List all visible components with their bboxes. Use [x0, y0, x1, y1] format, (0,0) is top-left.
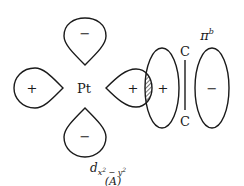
orbital-overlap-diagram: − + Pt + − + C C − πb dx2 − y2 (A) [0, 0, 244, 186]
d-orbital-bottom-lobe: − [64, 108, 106, 157]
sign-minus-top: − [80, 26, 91, 41]
sign-minus-bottom: − [80, 129, 91, 144]
sign-minus-pi: − [207, 81, 218, 96]
sign-plus-right: + [128, 81, 139, 96]
d-orbital-top-lobe: − [64, 18, 106, 65]
sign-plus-pi: + [158, 81, 169, 96]
platinum-label: Pt [77, 81, 92, 96]
figure-label: (A) [105, 175, 122, 186]
d-orbital-left-lobe: + [14, 68, 63, 108]
pi-orbital-right-lobe: − [195, 48, 229, 128]
carbon-top-label: C [180, 44, 190, 59]
sign-plus-left: + [27, 81, 38, 96]
pi-b-label: πb [199, 27, 214, 43]
carbon-bottom-label: C [180, 114, 190, 129]
